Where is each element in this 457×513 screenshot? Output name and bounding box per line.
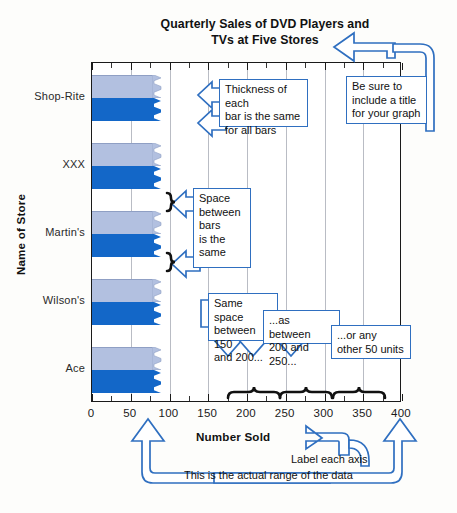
title-callout-line2: include a title [352, 94, 421, 108]
bar-ace-tvs [92, 370, 162, 393]
x-tick-label: 100 [149, 407, 189, 419]
bar-torn-edge [152, 279, 162, 302]
bar-xxx-tvs [92, 166, 162, 189]
x-tick-label: 200 [226, 407, 266, 419]
title-callout-line1: Be sure to [352, 80, 421, 94]
bar-body [92, 370, 154, 393]
spacing300-line1: ...or any [337, 329, 405, 343]
axis-tick [363, 63, 364, 70]
bar-torn-edge [152, 347, 162, 370]
bar-body [92, 279, 154, 302]
spacing150-line3: and 200... [214, 351, 272, 365]
y-tick-label: Martin's [15, 226, 85, 238]
axis-tick [131, 394, 132, 401]
axis-tick-minor [305, 396, 306, 401]
axis-tick-minor [266, 63, 267, 68]
space-callout-line3: bars [199, 219, 245, 233]
spacing200-line1: ...as between [269, 314, 334, 341]
label-axis-arrow [306, 426, 349, 455]
axis-tick-minor [383, 63, 384, 68]
x-tick-label: 50 [110, 407, 150, 419]
thickness-callout: Thickness of each bar is the same for al… [219, 79, 308, 127]
axis-tick [170, 394, 171, 401]
bar-body [92, 98, 154, 121]
x-tick-label: 150 [187, 407, 227, 419]
range-note: This is the actual range of the data [184, 469, 353, 481]
bar-ace-dvdplayers [92, 347, 162, 370]
bar-torn-edge [152, 234, 162, 257]
space-callout: Space between bars is the same [193, 188, 251, 268]
axis-tick-minor [189, 396, 190, 401]
bar-martins-tvs [92, 234, 162, 257]
space-callout-line5: same [199, 246, 245, 260]
bar-torn-edge [152, 143, 162, 166]
title-callout: Be sure to include a title for your grap… [346, 76, 427, 124]
y-tick-label: Wilson's [15, 294, 85, 306]
spacing300-callout: ...or any other 50 units [331, 325, 411, 359]
axis-tick [363, 394, 364, 401]
axis-tick-minor [344, 396, 345, 401]
grid-line [170, 63, 171, 401]
x-tick-label: 250 [265, 407, 305, 419]
axis-tick-minor [150, 396, 151, 401]
axis-tick [170, 63, 171, 70]
bar-body [92, 75, 154, 98]
bar-shoprite-dvdplayers [92, 75, 162, 98]
axis-tick-minor [150, 63, 151, 68]
space-callout-line2: between [199, 206, 245, 220]
bar-body [92, 234, 154, 257]
bar-body [92, 347, 154, 370]
title-callout-line3: for your graph [352, 107, 421, 121]
x-tick-label: 0 [71, 407, 111, 419]
spacing200-line2: 200 and 250... [269, 341, 334, 368]
bar-body [92, 302, 154, 325]
spacing300-line2: other 50 units [337, 343, 405, 357]
bar-wilsons-dvdplayers [92, 279, 162, 302]
axis-tick-minor [189, 63, 190, 68]
x-tick-label: 400 [381, 407, 421, 419]
thickness-callout-line1: Thickness of each [225, 83, 302, 110]
axis-tick-minor [228, 396, 229, 401]
axis-tick [247, 394, 248, 401]
axis-tick [131, 63, 132, 70]
bar-body [92, 143, 154, 166]
axis-tick [92, 63, 93, 70]
chart-title-line1: Quarterly Sales of DVD Players and [161, 17, 370, 31]
axis-tick-minor [266, 396, 267, 401]
bar-torn-edge [152, 211, 162, 234]
x-tick-label: 350 [342, 407, 382, 419]
bar-torn-edge [152, 75, 162, 98]
axis-tick [286, 394, 287, 401]
label-axis-note: Label each axis [291, 453, 367, 465]
axis-tick-minor [111, 396, 112, 401]
x-tick-label: 300 [304, 407, 344, 419]
axis-tick [402, 394, 403, 401]
bar-martins-dvdplayers [92, 211, 162, 234]
bar-torn-edge [152, 166, 162, 189]
thickness-callout-line3: for all bars [225, 124, 302, 138]
y-tick-label: Ace [15, 362, 85, 374]
axis-tick [325, 63, 326, 70]
axis-tick-minor [344, 63, 345, 68]
axis-tick-minor [305, 63, 306, 68]
bar-xxx-dvdplayers [92, 143, 162, 166]
bar-body [92, 211, 154, 234]
chart-figure: Quarterly Sales of DVD Players and TVs a… [0, 0, 457, 513]
axis-tick [402, 63, 403, 70]
x-axis-title: Number Sold [196, 430, 270, 443]
axis-tick-minor [383, 396, 384, 401]
chart-title-line2: TVs at Five Stores [211, 33, 319, 47]
spacing200-callout: ...as between 200 and 250... [263, 310, 340, 344]
bar-torn-edge [152, 302, 162, 325]
axis-tick [247, 63, 248, 70]
thickness-callout-line2: bar is the same [225, 110, 302, 124]
y-tick-label: XXX [15, 158, 85, 170]
y-tick-label: Shop-Rite [15, 90, 85, 102]
axis-tick [92, 394, 93, 401]
bar-body [92, 166, 154, 189]
chart-title: Quarterly Sales of DVD Players and TVs a… [150, 16, 380, 48]
bar-shoprite-tvs [92, 98, 162, 121]
bar-torn-edge [152, 370, 162, 393]
axis-tick-minor [228, 63, 229, 68]
space-callout-line1: Space [199, 192, 245, 206]
